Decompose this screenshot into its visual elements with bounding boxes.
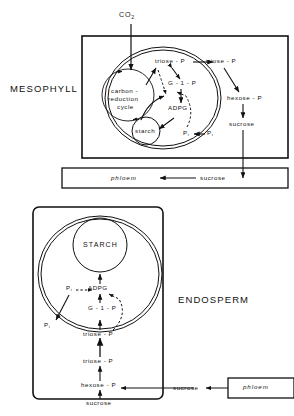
dashed-triose-p-to-cycle xyxy=(158,70,166,94)
mesophyll-phloem-sucrose-label: sucrose xyxy=(200,175,226,181)
endosperm-external-sucrose-label: sucrose xyxy=(173,385,199,391)
chloroplast-starch-label: starch xyxy=(135,128,155,134)
endosperm-cell-sucrose-label: sucrose xyxy=(86,400,112,406)
endosperm-tissue-label: ENDOSPERM xyxy=(178,295,249,305)
chloroplast-pi-label: Pi xyxy=(183,130,189,137)
arrow-cyt-triose-to-hexose xyxy=(224,68,239,92)
chloroplast-g1p-label: G - 1 - P xyxy=(168,80,196,86)
endosperm-cytosol-pi-label: Pi xyxy=(44,322,50,329)
endosperm-adpg-label: ADPG xyxy=(88,285,108,291)
chloroplast-adpg-label: ADPG xyxy=(168,105,188,111)
arrow-triose-p-to-g1p xyxy=(172,68,180,79)
carbon-reduction-cycle-line2: reduction xyxy=(108,96,138,102)
dashed-endo-activation-loop xyxy=(109,294,122,330)
endosperm-plastid-triose-p-label: triose - P xyxy=(83,331,113,337)
cytosol-hexose-p-label: hexose - P xyxy=(227,95,262,101)
carbon-reduction-cycle-line1: carbon - xyxy=(111,88,138,94)
chloroplast-triose-p-label: triose - P xyxy=(155,58,185,64)
endosperm-cell-boundary xyxy=(33,207,163,399)
mesophyll-phloem-label: phloem xyxy=(111,175,137,181)
arrow-adpg-to-starch xyxy=(159,118,174,129)
endosperm-g1p-label: G - 1 - P xyxy=(88,305,116,311)
cytosol-pi-label: Pi xyxy=(207,130,213,137)
cycle-arrow-top xyxy=(117,72,122,73)
cytosol-sucrose-label: sucrose xyxy=(229,121,255,127)
carbon-reduction-cycle-line3: cycle xyxy=(117,104,134,110)
co2-label: CO2 xyxy=(119,11,135,21)
endosperm-cytosol-hexose-p-label: hexose - P xyxy=(81,382,116,388)
cytosol-triose-p-label: triose - P xyxy=(206,58,236,64)
endosperm-plastid-pi-label: Pi xyxy=(66,285,72,292)
endosperm-cytosol-triose-p-label: triose - P xyxy=(83,358,113,364)
mesophyll-tissue-label: MESOPHYLL xyxy=(10,84,78,94)
diagram-canvas xyxy=(0,0,294,416)
endosperm-phloem-label: phloem xyxy=(243,384,269,390)
amyloplast-starch-label: STARCH xyxy=(83,241,118,248)
arrow-starch-to-cycle xyxy=(141,96,164,120)
